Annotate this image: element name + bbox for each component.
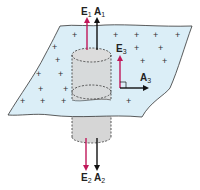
svg-text:+: + <box>20 96 25 106</box>
svg-text:+: + <box>134 43 139 53</box>
svg-text:+: + <box>52 42 57 52</box>
svg-text:A1: A1 <box>94 6 105 18</box>
svg-text:+: + <box>38 84 43 94</box>
svg-text:+: + <box>36 69 41 79</box>
svg-text:+: + <box>40 96 45 106</box>
svg-text:+: + <box>61 96 66 106</box>
svg-text:E2: E2 <box>81 172 92 184</box>
svg-text:+: + <box>158 43 163 53</box>
vector-E2: E2 <box>81 138 92 184</box>
cylinder-upper <box>72 48 111 101</box>
svg-text:+: + <box>113 30 118 40</box>
svg-text:+: + <box>134 30 139 40</box>
svg-text:+: + <box>162 56 167 66</box>
svg-text:E1: E1 <box>81 6 92 18</box>
svg-text:+: + <box>63 84 68 94</box>
svg-text:+: + <box>153 30 158 40</box>
svg-text:A2: A2 <box>94 172 105 184</box>
vector-A2: A2 <box>94 138 105 184</box>
svg-text:+: + <box>55 55 60 65</box>
gauss-pillbox-diagram: + + + + + + + + + + + + + + + + + + + E1… <box>0 0 200 190</box>
svg-text:+: + <box>58 69 63 79</box>
svg-text:+: + <box>72 30 77 40</box>
svg-text:+: + <box>126 96 131 106</box>
svg-text:+: + <box>175 30 180 40</box>
svg-text:+: + <box>140 56 145 66</box>
